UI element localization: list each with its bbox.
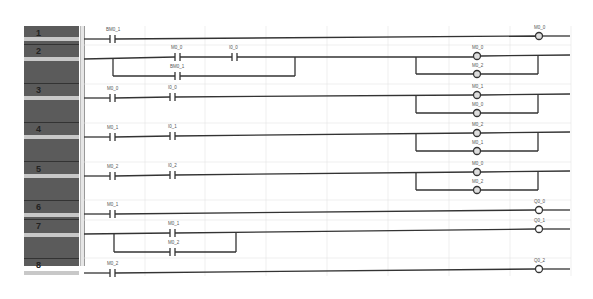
svg-text:M0_1: M0_1	[107, 125, 119, 130]
svg-text:M0_1: M0_1	[168, 221, 180, 226]
svg-text:M0_0: M0_0	[472, 102, 484, 107]
svg-text:BM0_1: BM0_1	[106, 27, 121, 32]
svg-text:M0_2: M0_2	[472, 122, 484, 127]
svg-text:M0_1: M0_1	[472, 140, 484, 145]
svg-text:M0_0: M0_0	[534, 25, 546, 30]
svg-text:M0_2: M0_2	[107, 261, 119, 266]
svg-text:Q0_2: Q0_2	[534, 258, 546, 263]
svg-text:M0_0: M0_0	[171, 45, 183, 50]
svg-text:M0_0: M0_0	[472, 45, 484, 50]
ladder-diagram: 1 2 3 4 5 6 7 8	[0, 0, 593, 299]
svg-text:I0_1: I0_1	[168, 124, 177, 129]
svg-text:Q0_0: Q0_0	[534, 199, 546, 204]
svg-text:M0_0: M0_0	[472, 161, 484, 166]
svg-text:Q0_1: Q0_1	[534, 218, 546, 223]
ladder-canvas: BM0_1 M0_0 M0_0 I0_0 BM0_1 M0_0 M0_2 M0_…	[0, 0, 593, 299]
svg-text:M0_1: M0_1	[472, 84, 484, 89]
svg-text:I0_0: I0_0	[229, 45, 238, 50]
svg-text:M0_1: M0_1	[107, 202, 119, 207]
svg-text:I0_0: I0_0	[168, 85, 177, 90]
svg-text:BM0_1: BM0_1	[170, 64, 185, 69]
svg-text:M0_2: M0_2	[472, 63, 484, 68]
svg-text:I0_2: I0_2	[168, 163, 177, 168]
svg-text:M0_2: M0_2	[168, 240, 180, 245]
svg-text:M0_0: M0_0	[107, 86, 119, 91]
svg-text:M0_2: M0_2	[472, 179, 484, 184]
svg-text:M0_2: M0_2	[107, 164, 119, 169]
